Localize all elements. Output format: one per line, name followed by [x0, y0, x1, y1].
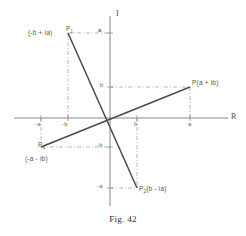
point-label-p2: P2(b - ia)	[139, 185, 167, 194]
tick-label-imag-a: a	[98, 27, 102, 33]
real-axis-label: R	[231, 112, 237, 121]
guideline-group	[41, 33, 190, 188]
point-label-p: P(a + ib)	[192, 79, 219, 86]
line-through-p1-and-p2	[68, 33, 137, 188]
point-marker-p3: P3	[38, 141, 45, 150]
figure-complex-plane: I R -a -b b a a b -b -a P(a + ib) P1 (-b…	[0, 0, 246, 236]
tick-label-imag-b: b	[100, 82, 104, 88]
figure-caption: Fig. 42	[0, 214, 246, 224]
point-marker-p3-sub: 3	[43, 145, 46, 150]
tick-label-real-neg-b: -b	[62, 121, 68, 127]
point-label-p2-expr: (b - ia)	[146, 185, 166, 192]
figure-caption-prefix: Fig.	[109, 214, 124, 224]
figure-caption-number: 42	[127, 214, 137, 224]
point-label-p1: (-b + ia)	[28, 29, 52, 36]
tick-label-real-neg-a: -a	[35, 121, 41, 127]
tick-label-imag-neg-a: -a	[97, 183, 103, 189]
tick-label-real-pos-a: a	[188, 121, 192, 127]
tick-label-imag-neg-b: -b	[97, 142, 103, 148]
tick-label-real-pos-b: b	[134, 121, 138, 127]
imaginary-axis-label: I	[116, 9, 119, 18]
point-label-p3: (-a - ib)	[25, 155, 48, 162]
point-marker-p1-sub: 1	[71, 29, 74, 34]
point-marker-p1: P1	[66, 25, 73, 34]
